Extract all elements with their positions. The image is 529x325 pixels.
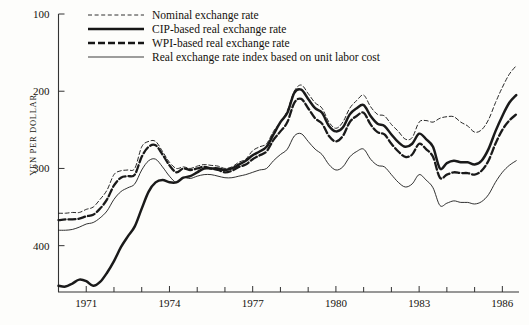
x-tick-label-1986: 1986: [491, 297, 514, 309]
y-tick-label-300: 300: [33, 162, 50, 174]
figure-container: YEN PER DOLLAR 1002003004001971197419771…: [0, 0, 529, 325]
series-line-ulc: [59, 133, 517, 230]
legend-item-nominal: Nominal exchange rate: [86, 8, 416, 22]
legend-swatch-thick-dashed-icon: [86, 37, 146, 49]
legend-swatch-fine-dashed-icon: [86, 9, 146, 21]
x-tick-label-1977: 1977: [242, 297, 265, 309]
legend-swatch-thick-solid-icon: [86, 23, 146, 35]
legend-label-nominal: Nominal exchange rate: [146, 9, 259, 21]
legend-item-wpi: WPI-based real exchange rate: [86, 36, 416, 50]
y-tick-label-100: 100: [33, 8, 50, 20]
x-tick-label-1980: 1980: [325, 297, 348, 309]
legend-swatch-thin-solid-icon: [86, 51, 146, 63]
x-tick-label-1983: 1983: [408, 297, 431, 309]
series-line-wpi: [59, 99, 517, 221]
legend-item-ulc: Real exchange rate index based on unit l…: [86, 50, 416, 64]
legend-label-cip: CIP-based real exchange rate: [146, 23, 286, 35]
legend-label-wpi: WPI-based real exchange rate: [146, 37, 290, 49]
y-tick-label-400: 400: [33, 240, 50, 252]
legend-item-cip: CIP-based real exchange rate: [86, 22, 416, 36]
legend-label-ulc: Real exchange rate index based on unit l…: [146, 51, 380, 63]
y-tick-label-200: 200: [33, 85, 50, 97]
series-group: [59, 66, 517, 287]
x-tick-label-1971: 1971: [75, 297, 97, 309]
x-tick-label-1974: 1974: [158, 297, 181, 309]
series-line-nominal: [59, 66, 517, 214]
chart-legend: Nominal exchange rate CIP-based real exc…: [86, 8, 416, 64]
